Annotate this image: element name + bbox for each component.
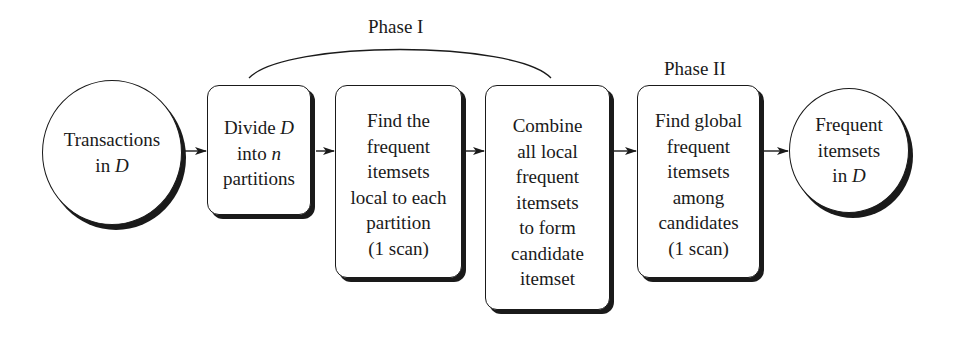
variable-d: D — [852, 165, 866, 186]
node-text-line: itemsets — [516, 190, 578, 216]
text-fragment: Divide — [224, 117, 280, 138]
node-text-line: in D — [95, 153, 128, 179]
node-divide-into-partitions: Divide D into n partitions — [207, 85, 311, 215]
node-text-line: Transactions — [64, 127, 160, 153]
text-fragment: in — [832, 165, 852, 186]
node-text-line: itemset — [520, 266, 575, 292]
node-text-line: partition — [366, 210, 430, 236]
node-text-line: itemsets — [367, 159, 429, 185]
node-text-line: frequent — [516, 164, 579, 190]
node-text-line: Find global — [655, 108, 742, 134]
phase-1-label: Phase I — [368, 16, 423, 38]
node-text-line: Divide D — [224, 115, 294, 141]
variable-n: n — [271, 143, 281, 164]
text-fragment: into — [237, 143, 271, 164]
node-text-line: Combine — [513, 113, 583, 139]
text-fragment: in — [95, 155, 115, 176]
node-text-line: candidates — [658, 210, 738, 236]
node-text-line: into n — [237, 141, 281, 167]
node-text-line: itemsets — [667, 159, 729, 185]
node-text-line: candidate — [511, 241, 584, 267]
node-find-global-frequent-itemsets: Find global frequent itemsets among cand… — [637, 85, 760, 278]
node-text-line: local to each — [350, 185, 446, 211]
node-text-line: to form — [519, 215, 575, 241]
node-text-line: among — [673, 185, 725, 211]
node-frequent-itemsets-in-d: Frequent itemsets in D — [789, 88, 909, 213]
node-transactions-in-d: Transactions in D — [42, 80, 182, 225]
node-text-line: Frequent — [815, 112, 883, 138]
node-text-line: (1 scan) — [668, 236, 729, 262]
node-find-local-frequent-itemsets: Find the frequent itemsets local to each… — [335, 85, 462, 278]
node-text-line: in D — [832, 163, 865, 189]
node-text-line: frequent — [367, 134, 430, 160]
variable-d: D — [280, 117, 294, 138]
node-text-line: frequent — [667, 134, 730, 160]
phase-1-bracket-arc — [249, 50, 551, 79]
node-text-line: (1 scan) — [368, 236, 429, 262]
node-combine-candidate-itemset: Combine all local frequent itemsets to f… — [485, 85, 610, 310]
phase-2-label: Phase II — [664, 58, 726, 80]
node-text-line: partitions — [223, 166, 295, 192]
node-text-line: itemsets — [818, 138, 880, 164]
variable-d: D — [115, 155, 129, 176]
node-text-line: Find the — [367, 108, 430, 134]
node-text-line: all local — [517, 139, 578, 165]
